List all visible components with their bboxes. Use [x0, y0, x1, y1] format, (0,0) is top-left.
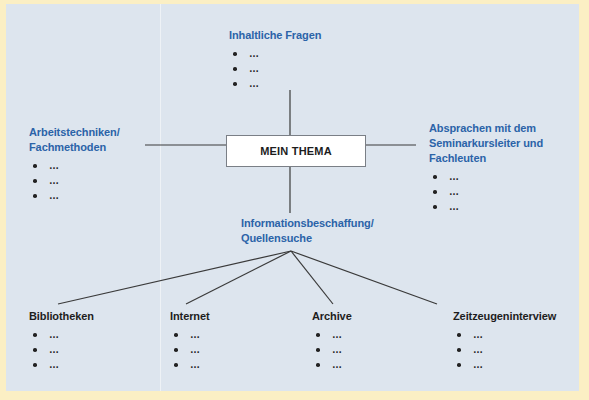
node-title: Zeitzeugeninterview — [453, 309, 556, 324]
bullet-item: … — [229, 61, 321, 76]
connector-zeitzeugeninterview — [291, 251, 437, 304]
node-title-line3: Fachleuten — [429, 151, 543, 166]
node-title-line2: Seminarkursleiter und — [429, 136, 543, 151]
node-internet: Internet … … … — [170, 309, 210, 372]
node-title: Bibliotheken — [29, 309, 94, 324]
node-bibliotheken: Bibliotheken … … … — [29, 309, 94, 372]
bullet-list: … … … — [229, 46, 321, 91]
bullet-item: … — [429, 169, 543, 184]
connector-internet — [186, 251, 291, 304]
node-inhaltliche-fragen: Inhaltliche Fragen … … … — [229, 28, 321, 91]
bullet-item: … — [170, 342, 210, 357]
bullet-list: … … … — [29, 327, 94, 372]
center-topic-box: MEIN THEMA — [226, 135, 366, 167]
bullet-item: … — [229, 46, 321, 61]
node-title: Internet — [170, 309, 210, 324]
node-title-line2: Quellensuche — [241, 231, 374, 246]
node-title: Inhaltliche Fragen — [229, 28, 321, 43]
bullet-item: … — [170, 357, 210, 372]
node-archive: Archive … … … — [312, 309, 352, 372]
bullet-item: … — [29, 342, 94, 357]
bullet-list: … … … — [170, 327, 210, 372]
bullet-item: … — [29, 173, 120, 188]
bullet-item: … — [453, 357, 556, 372]
bullet-item: … — [453, 327, 556, 342]
node-title-line1: Informationsbeschaffung/ — [241, 216, 374, 231]
bullet-item: … — [429, 184, 543, 199]
bullet-list: … … … — [453, 327, 556, 372]
bullet-item: … — [29, 357, 94, 372]
bullet-list: … … … — [29, 158, 120, 203]
node-zeitzeugeninterview: Zeitzeugeninterview … … … — [453, 309, 556, 372]
node-title-line2: Fachmethoden — [29, 140, 120, 155]
bullet-item: … — [312, 327, 352, 342]
bullet-item: … — [429, 199, 543, 214]
bullet-item: … — [453, 342, 556, 357]
connector-bibliotheken — [58, 251, 291, 304]
bullet-list: … … … — [312, 327, 352, 372]
node-informationsbeschaffung: Informationsbeschaffung/ Quellensuche — [241, 216, 374, 246]
bullet-item: … — [312, 357, 352, 372]
bullet-item: … — [29, 158, 120, 173]
bullet-list: … … … — [429, 169, 543, 214]
bullet-item: … — [29, 188, 120, 203]
node-title: Archive — [312, 309, 352, 324]
center-topic-label: MEIN THEMA — [260, 145, 332, 157]
node-absprachen: Absprachen mit dem Seminarkursleiter und… — [429, 121, 543, 214]
node-arbeitstechniken: Arbeitstechniken/ Fachmethoden … … … — [29, 125, 120, 203]
bullet-item: … — [170, 327, 210, 342]
bullet-item: … — [29, 327, 94, 342]
bullet-item: … — [312, 342, 352, 357]
bullet-item: … — [229, 76, 321, 91]
node-title-line1: Absprachen mit dem — [429, 121, 543, 136]
node-title-line1: Arbeitstechniken/ — [29, 125, 120, 140]
